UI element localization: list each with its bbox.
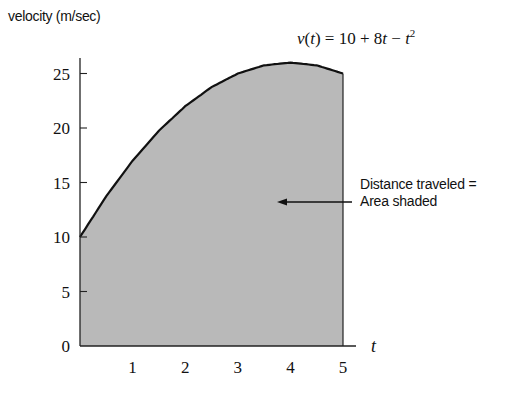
y-tick-label: 25 bbox=[53, 65, 70, 84]
x-tick-label: 1 bbox=[128, 358, 137, 377]
x-tick-label: 3 bbox=[234, 358, 243, 377]
formula-v: v bbox=[297, 29, 305, 48]
shaded-area bbox=[80, 63, 343, 346]
y-tick-label: 5 bbox=[62, 283, 71, 302]
formula-minus: − bbox=[387, 29, 405, 48]
annotation-line-2: Area shaded bbox=[360, 193, 476, 210]
velocity-formula: v(t) = 10 + 8t − t2 bbox=[297, 27, 415, 49]
x-axis-label: t bbox=[371, 336, 377, 356]
x-tick-label: 2 bbox=[181, 358, 190, 377]
y-tick-label: 0 bbox=[62, 337, 71, 356]
area-annotation: Distance traveled = Area shaded bbox=[360, 176, 476, 210]
annotation-line-1: Distance traveled = bbox=[360, 176, 476, 193]
formula-exponent: 2 bbox=[410, 27, 416, 39]
x-tick-label: 4 bbox=[286, 358, 295, 377]
x-tick-label: 5 bbox=[339, 358, 348, 377]
formula-t: t bbox=[310, 29, 315, 48]
y-tick-label: 20 bbox=[53, 119, 70, 138]
plot-area bbox=[80, 63, 343, 346]
y-tick-label: 15 bbox=[53, 174, 70, 193]
y-axis-label: velocity (m/sec) bbox=[8, 8, 100, 24]
y-tick-label: 10 bbox=[53, 228, 70, 247]
